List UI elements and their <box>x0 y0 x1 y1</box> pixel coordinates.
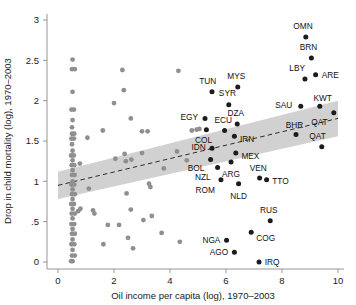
data-point <box>72 231 77 236</box>
data-point <box>72 242 77 247</box>
point-label-rus: RUS <box>260 205 278 215</box>
point-label-ven: VEN <box>250 163 267 173</box>
data-point <box>141 218 146 223</box>
data-point <box>112 101 117 106</box>
data-point-qat <box>331 110 336 115</box>
data-point <box>85 135 90 140</box>
point-label-syr: SYR <box>219 88 236 98</box>
x-tick-label-10: 10 <box>333 275 344 286</box>
data-point <box>176 68 181 73</box>
data-point-cog <box>249 230 254 235</box>
data-point-bhr <box>294 132 299 137</box>
data-point-sau <box>298 104 303 109</box>
x-tick-label-6: 6 <box>223 275 228 286</box>
point-label-sau: SAU <box>275 100 292 110</box>
data-point <box>117 222 122 227</box>
data-point <box>70 197 75 202</box>
data-point <box>70 57 75 62</box>
point-label-rom: ROM <box>195 185 214 195</box>
data-point <box>72 67 77 72</box>
point-label-qat: QAT <box>309 131 325 141</box>
data-point <box>72 182 77 187</box>
data-point <box>189 128 194 133</box>
data-point <box>70 248 75 253</box>
data-point <box>70 125 75 130</box>
data-point <box>105 222 110 227</box>
data-point <box>70 118 75 123</box>
point-label-mex: MEX <box>241 151 259 161</box>
point-label-omn: OMN <box>293 21 312 31</box>
data-point <box>72 131 77 136</box>
data-point <box>76 209 81 214</box>
data-point-nga <box>224 238 229 243</box>
data-point-mex <box>233 151 238 156</box>
data-point <box>72 136 77 141</box>
data-point-idn <box>210 146 215 151</box>
data-point-qat <box>319 144 324 149</box>
data-point <box>121 88 126 93</box>
data-point-are <box>313 72 318 77</box>
data-point <box>72 107 77 112</box>
data-point <box>69 259 74 264</box>
data-point <box>72 202 77 207</box>
data-point <box>100 128 105 133</box>
data-point <box>70 168 75 173</box>
data-point <box>92 211 97 216</box>
data-point <box>72 192 77 197</box>
y-axis-title: Drop in child mortality (log), 1970–2003 <box>2 58 13 224</box>
data-point-kwt <box>317 104 322 109</box>
data-point <box>140 151 145 156</box>
y-tick-label-2p5: 2.5 <box>26 55 39 66</box>
data-point <box>177 239 182 244</box>
point-label-tto: TTO <box>272 176 289 186</box>
point-label-lby: LBY <box>289 63 305 73</box>
data-point <box>70 187 75 192</box>
data-point <box>77 161 82 166</box>
data-point <box>70 142 75 147</box>
point-label-mys: MYS <box>227 71 245 81</box>
point-label-qat: QAT <box>311 117 327 127</box>
data-point-arg <box>229 159 234 164</box>
data-point-egy <box>203 116 208 121</box>
data-point-irn <box>232 134 237 139</box>
data-point <box>72 172 77 177</box>
data-point <box>70 148 75 153</box>
point-label-cog: COG <box>256 233 275 243</box>
point-label-ecu: ECU <box>214 115 232 125</box>
data-point-col <box>204 127 209 132</box>
data-point <box>70 89 75 94</box>
data-point <box>145 129 150 134</box>
data-point <box>149 214 154 219</box>
data-point <box>159 231 164 236</box>
point-label-egy: EGY <box>180 112 198 122</box>
x-axis-title: Oil income per capita (log), 1970–2003 <box>111 290 275 301</box>
data-point <box>72 163 77 168</box>
data-point-brn <box>309 55 314 60</box>
data-point <box>70 206 75 211</box>
y-tick-label-0: 0 <box>34 256 39 267</box>
point-label-ago: AGO <box>210 247 229 257</box>
data-point <box>122 152 127 157</box>
y-tick-label-2: 2 <box>34 95 39 106</box>
data-point <box>71 153 76 158</box>
data-point <box>72 222 77 227</box>
x-tick-label-0: 0 <box>55 275 60 286</box>
data-point <box>128 116 133 121</box>
point-label-arg: ARG <box>222 169 240 179</box>
point-label-bol: BOL <box>188 163 205 173</box>
scatter-plot-figure: OMNBRNLBYAREMYSTUNSYRSAUKWTEGYDZAECUQATC… <box>0 0 356 305</box>
y-tick-label-3: 3 <box>34 14 39 25</box>
point-label-kwt: KWT <box>313 93 331 103</box>
data-point <box>70 227 75 232</box>
data-point <box>126 235 131 240</box>
point-label-nzl: NZL <box>195 172 211 182</box>
data-point <box>124 191 129 196</box>
data-point-nzl <box>215 165 220 170</box>
data-point-irq <box>257 260 262 265</box>
data-point-dza <box>235 122 240 127</box>
data-point-ven <box>257 176 262 181</box>
data-point-omn <box>303 34 308 39</box>
point-label-bhr: BHR <box>286 120 304 130</box>
data-point <box>70 237 75 242</box>
data-point <box>70 158 75 163</box>
